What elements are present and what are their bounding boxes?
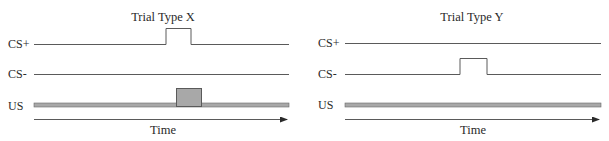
time-axis-label: Time: [460, 123, 486, 137]
us-trace: [345, 103, 601, 107]
cs-minus-trace: [345, 59, 601, 75]
panel-trial-type-x: Trial Type X CS+ CS- US Time: [8, 10, 289, 137]
us-trace: [34, 89, 289, 108]
signal-label-cs-minus: CS-: [8, 67, 27, 81]
us-pulse: [177, 89, 202, 107]
panel-title: Trial Type Y: [440, 10, 503, 24]
signal-label-cs-plus: CS+: [8, 37, 30, 51]
signal-label-us: US: [318, 98, 333, 112]
trial-timing-diagram: Trial Type X CS+ CS- US Time Trial Type …: [0, 0, 609, 141]
cs-plus-trace: [34, 29, 289, 45]
signal-label-us: US: [8, 99, 23, 113]
time-axis-label: Time: [150, 123, 176, 137]
panel-title: Trial Type X: [131, 10, 195, 24]
signal-label-cs-minus: CS-: [318, 67, 337, 81]
panel-trial-type-y: Trial Type Y CS+ CS- US Time: [318, 10, 601, 137]
signal-label-cs-plus: CS+: [318, 36, 340, 50]
